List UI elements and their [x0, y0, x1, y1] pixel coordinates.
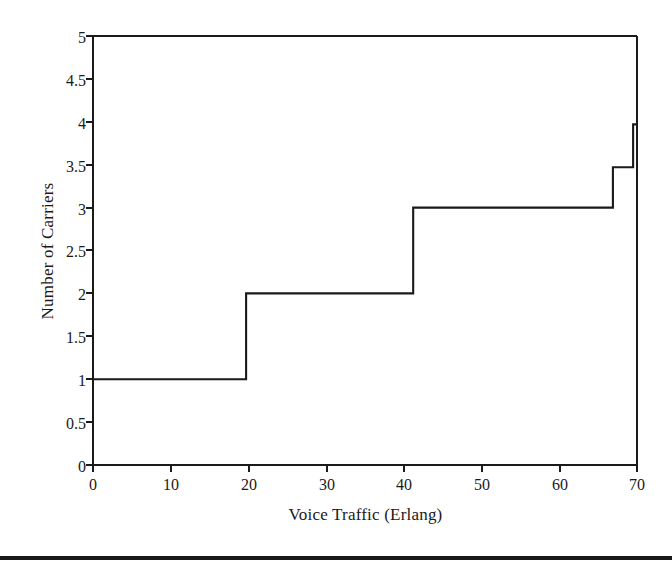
figure-canvas: Number of Carriers 5 4.5 4 3.5 3 2.5 2 1…	[0, 0, 672, 566]
x-axis-ticks	[93, 465, 637, 472]
y-axis-ticks	[86, 36, 93, 465]
axis-frame	[93, 36, 637, 465]
plot-area	[0, 0, 672, 566]
page-bottom-rule	[0, 556, 672, 560]
step-line-series	[93, 124, 637, 379]
